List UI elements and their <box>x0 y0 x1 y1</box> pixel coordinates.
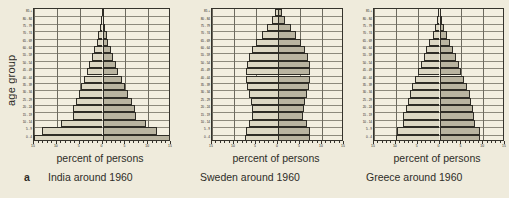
x-axis-tick-minor <box>251 141 252 143</box>
x-axis-tick-label: 10 <box>231 144 235 148</box>
pyramid-bar-right <box>278 61 310 68</box>
x-axis-tick-minor <box>259 141 260 143</box>
pyramid-bar-right <box>440 83 468 90</box>
x-axis-tick-label: 15 <box>502 144 506 148</box>
pyramid-bar-left <box>262 31 278 38</box>
pyramid-bar-left <box>246 68 278 75</box>
x-axis-tick-minor <box>452 141 453 143</box>
x-axis-tick-minor <box>377 141 378 143</box>
age-group-tick-label: 85 + <box>366 8 372 15</box>
age-group-tick-label: 75 - 79 <box>23 23 32 30</box>
pyramid-bar-right <box>278 83 309 90</box>
pyramid-bar-left <box>76 98 102 105</box>
panel-caption: Sweden around 1960 <box>200 171 300 183</box>
x-axis-tick-label: 10 <box>480 144 484 148</box>
pyramid-bar-right <box>440 76 465 83</box>
age-group-tick-label: 35 - 39 <box>201 82 210 89</box>
age-group-tick-label: 50 - 54 <box>23 60 32 67</box>
age-group-tick-label: 10 - 14 <box>201 119 210 126</box>
x-axis-tick-minor <box>473 141 474 143</box>
age-group-tick-label: 30 - 34 <box>201 89 210 96</box>
panel-sweden: 0 - 45 - 910 - 1415 - 1920 - 2425 - 2930… <box>186 0 348 198</box>
pyramid-bar-right <box>103 83 125 90</box>
x-axis-tick-minor <box>312 141 313 143</box>
x-axis-tick-minor <box>65 141 66 143</box>
pyramid-bar-right <box>103 46 111 53</box>
x-axis-tick-label: 15 <box>168 144 172 148</box>
gridline-vertical <box>34 9 35 140</box>
x-axis-tick-minor <box>281 141 282 143</box>
age-group-tick-label: 30 - 34 <box>23 89 32 96</box>
age-group-tick-label: 75 - 79 <box>363 23 372 30</box>
x-axis-tick-minor <box>325 141 326 143</box>
x-axis-tick-label: 10 <box>145 144 149 148</box>
pyramid-bar-right <box>278 68 310 75</box>
pyramid-bar-left <box>249 90 278 97</box>
pyramid-bar-left <box>94 46 103 53</box>
age-group-tick-label: 40 - 44 <box>201 75 210 82</box>
age-group-tick-label: 80 - 84 <box>363 15 372 22</box>
age-group-tick-label: 55 - 59 <box>363 52 372 59</box>
x-axis-tick-minor <box>224 141 225 143</box>
x-axis-tick-minor <box>97 141 98 143</box>
gridline-vertical <box>374 9 375 140</box>
pyramid-bar-right <box>440 61 459 68</box>
x-axis-tick-label: 0 <box>276 144 278 148</box>
pyramid-bar-right <box>103 98 132 105</box>
pyramid-bar-left <box>249 120 278 127</box>
x-axis-tick-minor <box>491 141 492 143</box>
x-axis-tick-minor <box>92 141 93 143</box>
pyramid-bar-left <box>252 46 278 53</box>
age-group-tick-label: 55 - 59 <box>201 52 210 59</box>
pyramid-bar-right <box>440 105 473 112</box>
x-axis-tick-minor <box>447 141 448 143</box>
age-group-tick-label: 80 - 84 <box>23 15 32 22</box>
age-group-tick-label: 30 - 34 <box>363 89 372 96</box>
age-group-tick-label: 25 - 29 <box>201 97 210 104</box>
pyramid-bar-left <box>251 98 278 105</box>
pyramid-bar-left <box>73 105 102 112</box>
pyramid-bar-left <box>433 31 440 38</box>
age-group-tick-label: 45 - 49 <box>363 67 372 74</box>
x-axis-tick-minor <box>42 141 43 143</box>
x-axis-tick-minor <box>246 141 247 143</box>
pyramid-bar-left <box>73 112 103 119</box>
x-axis-tick-label: 15 <box>371 144 375 148</box>
panel-india: 0 - 45 - 910 - 1415 - 1920 - 2425 - 2930… <box>0 0 186 198</box>
x-axis-tick-minor <box>399 141 400 143</box>
x-axis-tick-minor <box>143 141 144 143</box>
age-group-tick-label: 50 - 54 <box>201 60 210 67</box>
x-axis-tick-minor <box>386 141 387 143</box>
pyramid-bar-right <box>103 120 147 127</box>
pyramid-bar-left <box>408 98 439 105</box>
pyramid-bar-left <box>429 39 439 46</box>
x-axis-tick-minor <box>242 141 243 143</box>
x-axis-tick-minor <box>38 141 39 143</box>
x-axis-tick-minor <box>115 141 116 143</box>
age-group-tick-label: 20 - 24 <box>363 104 372 111</box>
age-group-tick-label: 70 - 74 <box>201 30 210 37</box>
center-axis-line <box>278 9 279 140</box>
pyramid-bar-left <box>79 90 103 97</box>
gridline-vertical <box>322 9 323 140</box>
x-axis-tick-minor <box>264 141 265 143</box>
pyramid-bar-left <box>89 61 102 68</box>
x-axis-tick-minor <box>408 141 409 143</box>
x-axis-tick-label: 15 <box>341 144 345 148</box>
age-group-axis: 0 - 45 - 910 - 1415 - 1920 - 2425 - 2930… <box>10 8 32 141</box>
pyramid-plot-area <box>373 8 504 141</box>
age-group-tick-label: 70 - 74 <box>23 30 32 37</box>
pyramid-bar-left <box>410 90 440 97</box>
pyramid-bar-right <box>278 39 301 46</box>
pyramid-plot-area <box>211 8 343 141</box>
age-group-tick-label: 45 - 49 <box>23 67 32 74</box>
x-axis-tick-label: 5 <box>459 144 461 148</box>
pyramid-bar-right <box>278 24 291 31</box>
pyramid-bar-left <box>92 53 103 60</box>
age-group-tick-label: 60 - 64 <box>363 45 372 52</box>
x-axis-title: percent of persons <box>201 152 351 164</box>
pyramid-bar-left <box>256 39 278 46</box>
age-group-tick-label: 60 - 64 <box>23 45 32 52</box>
pyramid-bar-left <box>247 83 278 90</box>
pyramid-bar-right <box>278 46 305 53</box>
